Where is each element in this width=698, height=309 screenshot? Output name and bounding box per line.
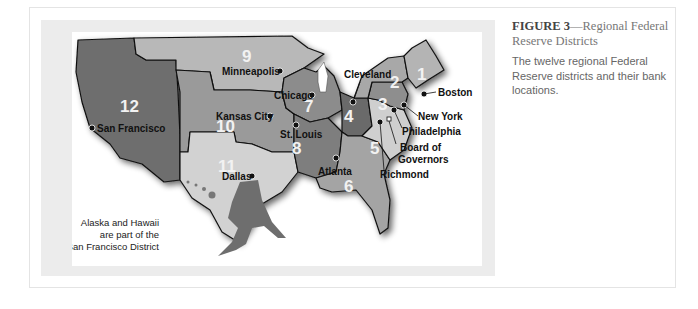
alaska-hawaii-note-line3: San Francisco District: [72, 241, 159, 252]
city-label-new-york: New York: [418, 111, 463, 122]
district-number-5: 5: [370, 139, 379, 158]
city-label-minneapolis: Minneapolis: [222, 66, 280, 77]
lake-michigan: [318, 62, 328, 92]
city-label-atlanta: Atlanta: [318, 166, 352, 177]
figure-caption: FIGURE 3—Regional Federal Reserve Distri…: [512, 19, 672, 98]
city-label-cleveland: Cleveland: [344, 69, 391, 80]
bank-dot-san-francisco: [89, 125, 95, 131]
city-label-st-louis: St. Louis: [280, 129, 323, 140]
city-label-boston: Boston: [438, 87, 472, 98]
alaska-hawaii-note-line2: are part of the: [100, 229, 159, 240]
district-number-12: 12: [120, 97, 139, 116]
bank-dot-atlanta: [333, 155, 339, 161]
board-label-line2: Governors: [398, 154, 449, 165]
figure-title: FIGURE 3—Regional Federal Reserve Distri…: [512, 19, 672, 49]
district-number-6: 6: [344, 177, 353, 196]
alaska-hawaii-note-line1: Alaska and Hawaii: [81, 217, 159, 228]
city-label-san-francisco: San Francisco: [97, 123, 165, 134]
federal-reserve-districts-map: 12 9 10 11 7 8 4 6 5 3 2 1 San Francisco…: [72, 32, 482, 266]
district-number-1: 1: [417, 65, 426, 84]
bank-dot-st-louis: [293, 122, 299, 128]
board-label-line1: Board of: [400, 142, 442, 153]
figure-description: The twelve regional Federal Reserve dist…: [512, 54, 672, 98]
district-number-9: 9: [242, 47, 251, 66]
district-number-8: 8: [292, 139, 301, 158]
board-of-governors-marker: [387, 117, 391, 121]
city-label-dallas: Dallas: [222, 171, 252, 182]
city-label-chicago: Chicago: [274, 90, 313, 101]
city-label-kansas-city: Kansas City: [216, 111, 274, 122]
city-label-richmond: Richmond: [380, 169, 429, 180]
district-number-4: 4: [344, 107, 354, 126]
city-label-philadelphia: Philadelphia: [402, 126, 461, 137]
district-number-3: 3: [378, 95, 387, 114]
district-number-2: 2: [390, 73, 399, 92]
figure-label: FIGURE 3: [512, 19, 570, 33]
